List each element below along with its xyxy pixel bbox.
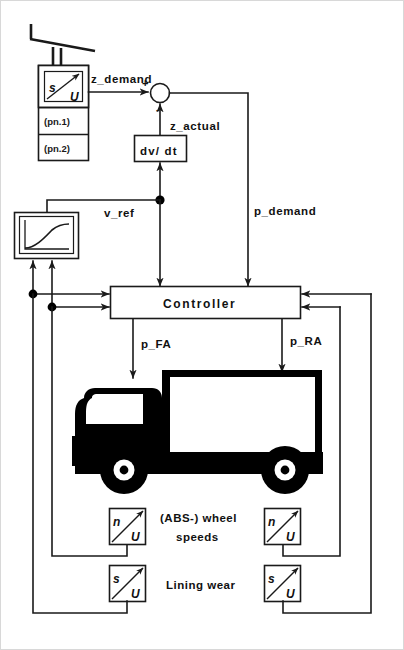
pedal-sensor-port-1: (pn.1)	[44, 116, 70, 127]
wheel-speed-right-input-symbol: n	[268, 515, 275, 529]
summing-junction-plus: +	[142, 77, 148, 89]
brake-control-diagram: s U (pn.1) (pn.2) z_demand + - p_demand …	[0, 0, 404, 650]
reference-speed-block[interactable]	[15, 213, 79, 259]
wheel-speed-left-output-symbol: U	[131, 530, 140, 544]
wheel-speed-right-output-symbol: U	[286, 530, 295, 544]
label-v-ref: v_ref	[104, 207, 135, 219]
truck-illustration	[72, 370, 323, 494]
pedal-sensor-port-2: (pn.2)	[44, 143, 70, 154]
lining-wear-left-output-symbol: U	[131, 587, 140, 601]
label-p-ra: p_RA	[290, 335, 322, 347]
lining-wear-right-input-symbol: s	[268, 572, 275, 586]
lining-wear-group-label: Lining wear	[166, 579, 235, 591]
lining-wear-right-output-symbol: U	[286, 587, 295, 601]
wheel-speed-group-label-line1: (ABS-) wheel	[160, 512, 237, 524]
brake-pedal	[30, 24, 95, 65]
label-p-demand: p_demand	[254, 205, 316, 217]
pedal-sensor-input-symbol: s	[49, 81, 56, 95]
pedal-sensor-output-symbol: U	[70, 90, 79, 104]
wheel-speed-left-input-symbol: n	[113, 515, 120, 529]
label-z-actual: z_actual	[170, 120, 220, 132]
label-p-fa: p_FA	[141, 338, 172, 350]
diagram-canvas: s U (pn.1) (pn.2) z_demand + - p_demand …	[0, 0, 404, 650]
lining-wear-left-input-symbol: s	[113, 572, 120, 586]
controller-label: Controller	[163, 297, 236, 311]
summing-junction	[151, 84, 170, 103]
wheel-speed-group-label-line2: speeds	[176, 531, 219, 543]
derivative-block-label: dv/ dt	[140, 145, 178, 157]
